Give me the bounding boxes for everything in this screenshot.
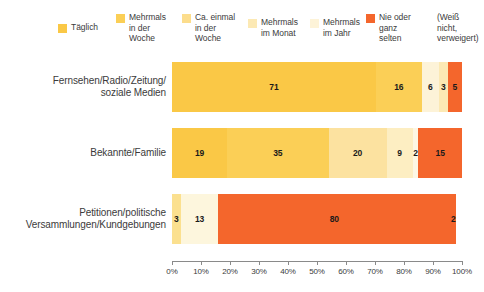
legend-item: (Weiß nicht, verweigert): [424, 12, 479, 44]
bar-segment-value: 3: [174, 214, 179, 224]
x-axis-tick: [404, 261, 405, 265]
legend-swatch-icon: [248, 19, 257, 28]
x-axis-tick: [288, 261, 289, 265]
x-axis-tick: [346, 261, 347, 265]
stacked-bar: 7116635: [172, 62, 462, 112]
x-axis-tick-label: 40%: [280, 267, 296, 276]
bar-segment-value: 35: [273, 148, 282, 158]
x-axis-tick-label: 50%: [309, 267, 325, 276]
x-axis-tick-label: 10%: [193, 267, 209, 276]
legend-swatch-icon: [366, 14, 375, 23]
bar-row-label-line: Bekannte/Familie: [90, 147, 166, 160]
legend-swatch-icon: [310, 19, 319, 28]
bar-segment: 9: [387, 128, 413, 178]
bar-segment: 71: [172, 62, 376, 112]
bar-segment: 80: [218, 194, 450, 244]
legend-item-label: Nie oder ganz selten: [379, 12, 411, 44]
legend-item-label: Mehrmals in der Woche: [129, 12, 166, 44]
bar-row-label: Bekannte/Familie: [0, 128, 166, 178]
bar-segment-value: 15: [436, 148, 445, 158]
x-axis-tick-label: 70%: [367, 267, 383, 276]
x-axis-tick: [433, 261, 434, 265]
x-axis-tick-label: 0%: [166, 267, 177, 276]
bar-segment-value: 5: [453, 82, 458, 92]
legend-item: Nie oder ganz selten: [366, 12, 411, 44]
bar-row-label: Fernsehen/Radio/Zeitung/soziale Medien: [0, 62, 166, 112]
x-axis-tick: [259, 261, 260, 265]
x-axis-tick: [462, 261, 463, 265]
stacked-bar: 1935209215: [172, 128, 462, 178]
x-axis-tick-label: 80%: [396, 267, 412, 276]
x-axis-tick-label: 90%: [425, 267, 441, 276]
legend-item: Mehrmals in der Woche: [116, 12, 166, 44]
x-axis-tick: [230, 261, 231, 265]
bar-row: Fernsehen/Radio/Zeitung/soziale Medien71…: [0, 62, 484, 112]
x-axis-tick-label: 100%: [452, 267, 472, 276]
bar-segment: 16: [376, 62, 422, 112]
bar-segment-value: 3: [441, 82, 446, 92]
legend-swatch-icon: [58, 24, 67, 33]
bar-segment-value: 2: [413, 148, 418, 158]
bar-segment-value: 16: [394, 82, 403, 92]
bar-segment-value: 80: [330, 214, 339, 224]
bar-segment-value: 19: [195, 148, 204, 158]
bar-segment: 19: [172, 128, 227, 178]
x-axis-tick-label: 60%: [338, 267, 354, 276]
x-axis: 0%10%20%30%40%50%60%70%80%90%100%: [172, 261, 462, 291]
bar-segment-value: 13: [195, 214, 204, 224]
legend-swatch-icon: [182, 14, 191, 23]
bar-segment-value: 2: [451, 214, 456, 224]
bar-segment: 15: [418, 128, 462, 178]
bar-segment-value: 71: [269, 82, 278, 92]
bar-segment: 5: [448, 62, 462, 112]
x-axis-tick-label: 30%: [251, 267, 267, 276]
bar-row-label: Petitionen/politischeVersammlungen/Kundg…: [0, 194, 166, 244]
stacked-bar: 313802: [172, 194, 462, 244]
chart-legend: TäglichMehrmals in der WocheCa. einmal i…: [0, 0, 484, 62]
x-axis-tick: [317, 261, 318, 265]
legend-item: Mehrmals im Jahr: [310, 17, 360, 38]
bar-segment: 3: [439, 62, 448, 112]
legend-item: Mehrmals im Monat: [248, 17, 298, 38]
x-axis-tick-label: 20%: [222, 267, 238, 276]
bar-segment: 2: [450, 194, 456, 244]
bar-row-label-line: Petitionen/politische: [79, 207, 166, 220]
chart-plot-area: Fernsehen/Radio/Zeitung/soziale Medien71…: [0, 60, 484, 292]
bar-segment-value: 6: [428, 82, 433, 92]
bar-row-label-line: soziale Medien: [101, 87, 166, 100]
bar-row-label-line: Fernsehen/Radio/Zeitung/: [53, 75, 166, 88]
legend-item: Täglich: [58, 22, 98, 33]
x-axis-tick: [172, 261, 173, 265]
bar-segment-value: 9: [397, 148, 402, 158]
legend-item-label: Täglich: [71, 22, 98, 33]
x-axis-tick: [375, 261, 376, 265]
legend-item-label: Ca. einmal in der Woche: [195, 12, 235, 44]
bar-segment: 20: [329, 128, 387, 178]
bar-row: Petitionen/politischeVersammlungen/Kundg…: [0, 194, 484, 244]
legend-item: Ca. einmal in der Woche: [182, 12, 235, 44]
bar-segment-value: 20: [353, 148, 362, 158]
legend-item-label: Mehrmals im Jahr: [323, 17, 360, 38]
bar-row-label-line: Versammlungen/Kundgebungen: [26, 219, 166, 232]
bar-segment: 6: [422, 62, 439, 112]
bar-segment: 35: [227, 128, 329, 178]
bar-row: Bekannte/Familie1935209215: [0, 128, 484, 178]
legend-swatch-icon: [116, 14, 125, 23]
legend-item-label: (Weiß nicht, verweigert): [437, 12, 479, 44]
legend-item-label: Mehrmals im Monat: [261, 17, 298, 38]
x-axis-tick: [201, 261, 202, 265]
bar-segment: 13: [181, 194, 219, 244]
bar-segment: 3: [172, 194, 181, 244]
